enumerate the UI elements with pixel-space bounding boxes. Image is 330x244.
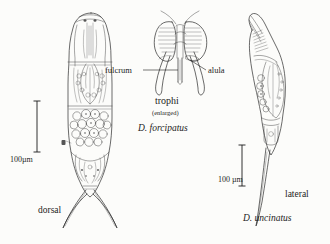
label-species-forcipatus: D. forcipatus bbox=[138, 124, 188, 134]
label-species-uncinatus: D. uncinatus bbox=[243, 214, 292, 224]
label-view-lateral: lateral bbox=[285, 190, 309, 200]
label-trophi-subtitle: (enlarged) bbox=[152, 110, 179, 117]
label-view-dorsal: dorsal bbox=[38, 206, 61, 216]
illustration-plate: fulcrum alula trophi (enlarged) D. forci… bbox=[0, 0, 330, 244]
label-scale-right: 100 µm bbox=[218, 176, 243, 184]
label-fulcrum: fulcrum bbox=[105, 66, 132, 75]
label-scale-left: 100µm bbox=[10, 156, 33, 164]
label-trophi-title: trophi bbox=[155, 96, 179, 106]
label-alula: alula bbox=[208, 66, 225, 75]
